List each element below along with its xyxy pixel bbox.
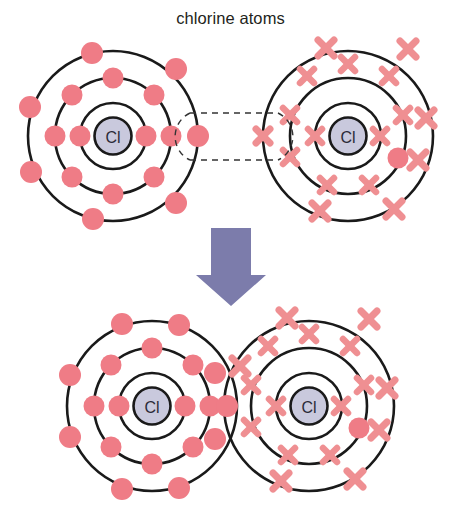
electron-dot — [103, 68, 124, 89]
electron-cross — [410, 152, 426, 168]
electron-dot — [183, 355, 204, 376]
electron-dot — [111, 313, 133, 335]
electron-dot — [168, 314, 190, 336]
electron-cross — [400, 41, 416, 57]
electron-cross — [371, 422, 387, 438]
electron-cross — [341, 57, 355, 71]
electron-dot — [161, 126, 182, 147]
electron-dot — [109, 396, 130, 417]
electron-dot — [82, 208, 104, 230]
electron-dot — [101, 437, 122, 458]
shared-electron-dot — [216, 395, 238, 417]
bottom-left-atom: Cl — [59, 313, 237, 500]
bottom-row-group: Cl — [59, 310, 395, 500]
electron-dot — [183, 437, 204, 458]
electron-dot-stray — [388, 148, 409, 169]
electron-dot — [84, 396, 105, 417]
bottom-right-atom: Cl — [224, 310, 395, 491]
electron-dot — [136, 126, 157, 147]
electron-dot — [144, 167, 165, 188]
electron-cross — [386, 201, 402, 217]
diagram-canvas: chlorine atoms — [0, 0, 461, 517]
electron-dot — [81, 42, 103, 64]
nucleus: Cl — [134, 388, 171, 425]
electron-dot — [103, 184, 124, 205]
electron-dot — [59, 364, 81, 386]
electron-dot — [204, 428, 226, 450]
covalent-bonding-figure: Cl — [0, 0, 461, 517]
top-left-atom: Cl — [19, 42, 209, 230]
electron-cross — [302, 327, 316, 341]
electron-cross — [261, 339, 275, 353]
electron-cross-unpaired — [256, 129, 270, 143]
electron-cross — [382, 69, 396, 83]
nucleus-label: Cl — [301, 399, 316, 416]
electron-dot — [111, 478, 133, 500]
electron-dot — [101, 355, 122, 376]
electron-dot — [142, 454, 163, 475]
electron-dot — [144, 85, 165, 106]
electron-dot-unpaired — [187, 125, 209, 147]
electron-dot — [59, 426, 81, 448]
electron-dot — [204, 362, 226, 384]
arrow-shape — [196, 228, 266, 306]
reaction-arrow — [196, 228, 266, 306]
electron-dot — [62, 85, 83, 106]
electron-dot — [45, 126, 66, 147]
nucleus-label: Cl — [144, 399, 159, 416]
electron-dot — [20, 161, 42, 183]
electron-cross — [361, 311, 377, 327]
electron-dot — [19, 96, 41, 118]
electron-cross — [347, 471, 363, 487]
nucleus-label: Cl — [105, 129, 120, 146]
electron-dot — [175, 396, 196, 417]
electron-dot — [165, 58, 187, 80]
electron-dot — [165, 192, 187, 214]
nucleus-label: Cl — [340, 129, 355, 146]
electron-cross — [300, 69, 314, 83]
nucleus: Cl — [291, 388, 328, 425]
electron-dot — [168, 477, 190, 499]
electron-cross — [343, 339, 357, 353]
electron-dot — [142, 338, 163, 359]
electron-dot — [62, 167, 83, 188]
electron-dot-stray — [349, 418, 370, 439]
top-right-atom: Cl — [256, 40, 434, 221]
nucleus: Cl — [95, 118, 132, 155]
electron-dot — [70, 126, 91, 147]
nucleus: Cl — [330, 118, 367, 155]
top-row-group: Cl — [19, 40, 434, 230]
